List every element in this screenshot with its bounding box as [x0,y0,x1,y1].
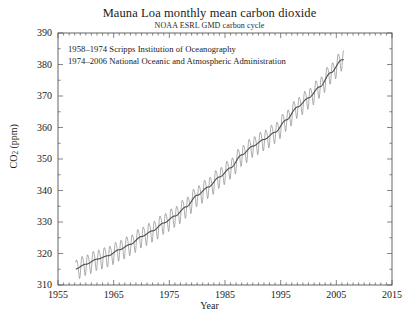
y-tick-label: 370 [18,91,52,101]
y-tick-label: 340 [18,186,52,196]
x-tick-label: 1985 [202,290,248,300]
chart-annotation: 1958–1974 Scripps Institution of Oceanog… [68,44,236,54]
y-tick-label: 310 [18,280,52,290]
chart-root: Mauna Loa monthly mean carbon dioxide NO… [0,0,419,321]
series-trend-co2 [76,60,344,269]
x-tick-label: 1975 [146,290,192,300]
x-tick-label: 1965 [91,290,137,300]
axes-frame [58,33,392,285]
x-tick-label: 1995 [258,290,304,300]
series-monthly-co2 [76,51,344,279]
x-tick-label: 2015 [369,290,415,300]
y-tick-label: 380 [18,60,52,70]
y-tick-label: 360 [18,123,52,133]
x-tick-label: 1955 [35,290,81,300]
y-tick-label: 320 [18,249,52,259]
y-tick-label: 330 [18,217,52,227]
chart-annotation: 1974–2006 National Oceanic and Atmospher… [68,56,286,66]
axis-ticks [58,33,392,285]
y-tick-label: 390 [18,28,52,38]
y-tick-label: 350 [18,154,52,164]
x-tick-label: 2005 [313,290,359,300]
